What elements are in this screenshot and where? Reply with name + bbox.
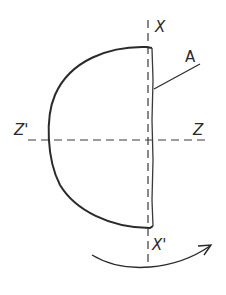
diagram-canvas: X A Z' Z X' (0, 0, 226, 295)
leader-line-a (154, 64, 200, 89)
diagram-svg (0, 0, 226, 295)
label-x-top: X (155, 20, 165, 35)
label-a: A (185, 50, 195, 65)
half-disc-outline (49, 47, 153, 228)
label-z-right: Z (193, 123, 203, 138)
flat-edge-a (152, 48, 153, 226)
label-z-left: Z' (14, 123, 28, 138)
rotation-arrow (92, 246, 210, 267)
label-x-bottom: X' (152, 238, 166, 253)
